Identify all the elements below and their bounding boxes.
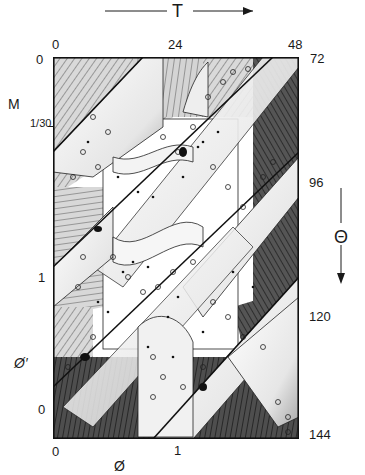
bottom-tick-0: 0 [52, 445, 59, 458]
right-tick-144: 144 [309, 428, 331, 441]
right-axis-symbol: Θ [334, 228, 348, 246]
left-tick-1-30: 1/30 [30, 118, 51, 129]
top-tick-0: 0 [52, 38, 59, 51]
right-tick-120: 120 [309, 310, 331, 323]
left-lower-symbol: Ø′ [14, 356, 28, 370]
top-tick-24: 24 [168, 38, 182, 51]
left-tick-1: 1 [38, 271, 45, 284]
phase-diagram [53, 57, 299, 439]
left-upper-symbol: M [8, 97, 20, 111]
top-axis-symbol: T [172, 2, 183, 20]
bottom-tick-1: 1 [174, 444, 181, 457]
diagram-illustration [53, 57, 299, 439]
left-tick-0-bottom: 0 [38, 403, 45, 416]
top-tick-48: 48 [288, 38, 302, 51]
left-tick-0-top: 0 [36, 53, 43, 66]
right-tick-72: 72 [310, 52, 324, 65]
right-tick-96: 96 [309, 176, 323, 189]
bottom-axis-symbol: Ø [114, 459, 125, 473]
